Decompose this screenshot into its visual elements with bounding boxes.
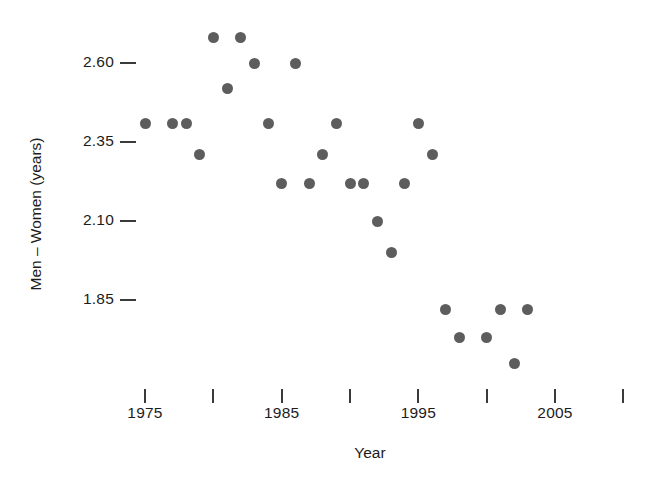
data-point: [140, 118, 151, 129]
data-point: [386, 247, 397, 258]
data-point: [222, 83, 233, 94]
data-point: [345, 178, 356, 189]
y-tick-label: 2.60: [56, 53, 114, 71]
x-axis-title: Year: [270, 444, 470, 462]
x-tick-mark: [212, 389, 214, 403]
data-point: [181, 118, 192, 129]
data-point: [290, 58, 301, 69]
data-point: [331, 118, 342, 129]
data-point: [167, 118, 178, 129]
x-tick-label: 1975: [115, 404, 175, 422]
data-point: [495, 304, 506, 315]
x-tick-mark: [486, 389, 488, 403]
data-point: [372, 216, 383, 227]
data-point: [304, 178, 315, 189]
y-tick-label: 2.35: [56, 132, 114, 150]
y-axis-title: Men – Women (years): [27, 114, 45, 314]
data-point: [358, 178, 369, 189]
data-point: [413, 118, 424, 129]
y-tick-label: 2.10: [56, 211, 114, 229]
data-point: [427, 149, 438, 160]
x-tick-mark: [554, 389, 556, 403]
scatter-chart: 2.602.352.101.85 1975198519952005 Men – …: [0, 0, 663, 483]
x-tick-mark: [281, 389, 283, 403]
y-axis-line: [0, 0, 2, 338]
data-point: [263, 118, 274, 129]
y-tick-mark: [120, 220, 136, 222]
y-tick-label: 1.85: [56, 290, 114, 308]
data-point: [194, 149, 205, 160]
x-tick-label: 2005: [525, 404, 585, 422]
data-point: [399, 178, 410, 189]
y-tick-mark: [120, 141, 136, 143]
x-tick-mark: [144, 389, 146, 403]
x-tick-label: 1995: [388, 404, 448, 422]
y-tick-mark: [120, 62, 136, 64]
x-tick-mark: [349, 389, 351, 403]
data-point: [276, 178, 287, 189]
data-point: [235, 32, 246, 43]
data-point: [440, 304, 451, 315]
x-tick-mark: [417, 389, 419, 403]
data-point: [509, 358, 520, 369]
data-point: [249, 58, 260, 69]
data-point: [454, 332, 465, 343]
x-tick-mark: [622, 389, 624, 403]
data-point: [317, 149, 328, 160]
x-axis-line: [0, 338, 495, 340]
data-point: [522, 304, 533, 315]
data-point: [208, 32, 219, 43]
data-point: [481, 332, 492, 343]
y-tick-mark: [120, 299, 136, 301]
x-tick-label: 1985: [252, 404, 312, 422]
